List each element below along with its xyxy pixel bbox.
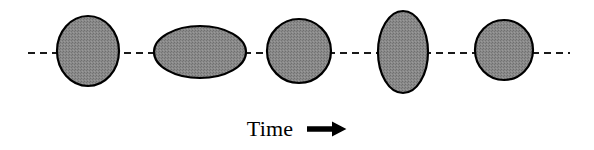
blob-2 [154, 26, 246, 78]
blob-3 [267, 19, 331, 83]
figure-canvas [0, 0, 594, 150]
blob-4 [378, 11, 428, 93]
oscillating-droplet-figure: Time [0, 0, 594, 150]
blob-1 [57, 16, 119, 86]
blob-5 [475, 20, 533, 80]
